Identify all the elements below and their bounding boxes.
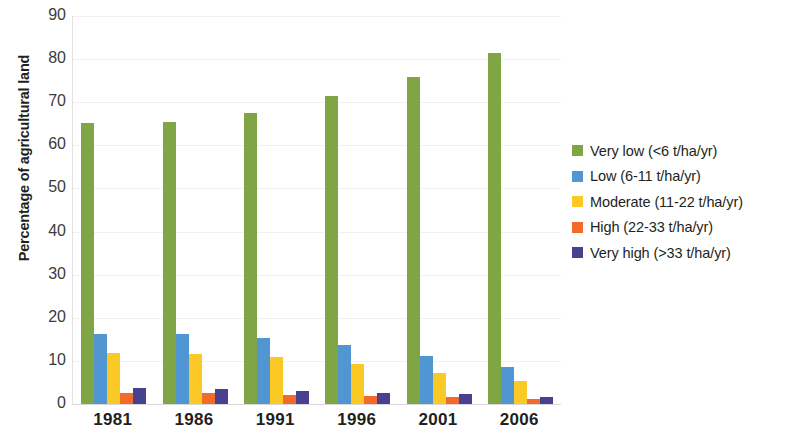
bar: [338, 345, 351, 404]
bar: [202, 393, 215, 404]
x-axis-tick-label: 1981: [68, 410, 158, 430]
bar: [514, 381, 527, 404]
y-axis-tick-label: 50: [14, 179, 66, 195]
bar: [189, 354, 202, 404]
legend-item[interactable]: Very high (>33 t/ha/yr): [572, 240, 786, 266]
bar: [283, 395, 296, 404]
bar-group: [163, 16, 228, 404]
x-axis-tick-label: 1996: [312, 410, 402, 430]
bar: [120, 393, 133, 404]
legend-swatch-icon: [572, 171, 583, 182]
y-axis-tick-label: 70: [14, 93, 66, 109]
legend-item[interactable]: Moderate (11-22 t/ha/yr): [572, 189, 786, 215]
bar-group: [325, 16, 390, 404]
x-axis-tick-label: 1986: [149, 410, 239, 430]
bar: [377, 393, 390, 404]
legend-item-label: Low (6-11 t/ha/yr): [590, 168, 701, 184]
bar-chart: Percentage of agricultural land 01020304…: [0, 0, 786, 441]
legend-item-label: Very high (>33 t/ha/yr): [590, 245, 731, 261]
plot-area: [72, 16, 561, 405]
y-axis-tick-label: 90: [14, 7, 66, 23]
legend-swatch-icon: [572, 145, 583, 156]
bar: [407, 77, 420, 404]
bar-group: [488, 16, 553, 404]
bar: [257, 338, 270, 404]
y-axis-tick-label: 60: [14, 136, 66, 152]
bar: [527, 399, 540, 404]
legend-item-label: Very low (<6 t/ha/yr): [590, 143, 717, 159]
bar: [296, 391, 309, 404]
y-axis-tick-label: 10: [14, 352, 66, 368]
legend-item-label: Moderate (11-22 t/ha/yr): [590, 194, 743, 210]
bar: [81, 123, 94, 405]
x-axis-tick-label: 1991: [230, 410, 320, 430]
bar-group: [407, 16, 472, 404]
bar: [351, 364, 364, 404]
x-axis-tick-label: 2006: [474, 410, 564, 430]
y-axis-tick-label: 80: [14, 50, 66, 66]
legend-swatch-icon: [572, 196, 583, 207]
chart-legend: Very low (<6 t/ha/yr)Low (6-11 t/ha/yr)M…: [572, 138, 786, 266]
y-axis-tick-labels: 0102030405060708090: [0, 0, 66, 441]
bar: [176, 334, 189, 404]
legend-swatch-icon: [572, 222, 583, 233]
bar: [325, 96, 338, 404]
legend-swatch-icon: [572, 247, 583, 258]
y-axis-tick-label: 30: [14, 266, 66, 282]
bar: [364, 396, 377, 404]
y-axis-tick-label: 0: [14, 395, 66, 411]
bar: [107, 353, 120, 404]
bar-group: [244, 16, 309, 404]
bar-group: [81, 16, 146, 404]
bar: [215, 389, 228, 404]
bar: [270, 357, 283, 404]
bar: [459, 394, 472, 404]
bar: [433, 373, 446, 404]
bar: [133, 388, 146, 404]
bar: [540, 397, 553, 404]
bar: [420, 356, 433, 404]
y-axis-tick-label: 40: [14, 223, 66, 239]
bar: [163, 122, 176, 404]
bar: [244, 113, 257, 404]
legend-item-label: High (22-33 t/ha/yr): [590, 219, 713, 235]
x-axis-tick-label: 2001: [393, 410, 483, 430]
bar: [488, 53, 501, 404]
legend-item[interactable]: Low (6-11 t/ha/yr): [572, 164, 786, 190]
legend-item[interactable]: High (22-33 t/ha/yr): [572, 215, 786, 241]
bar: [501, 367, 514, 404]
bar: [94, 334, 107, 404]
y-axis-tick-label: 20: [14, 309, 66, 325]
bar: [446, 397, 459, 404]
legend-item[interactable]: Very low (<6 t/ha/yr): [572, 138, 786, 164]
